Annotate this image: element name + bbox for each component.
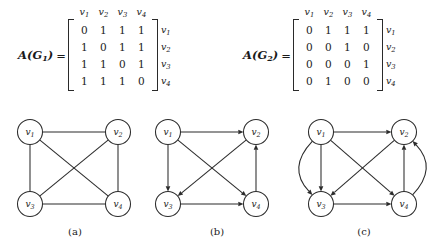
edge-arrowhead (319, 186, 324, 191)
matrix-a-g2-row-labels: v1 v2 v3 v4 (383, 19, 396, 91)
graph-edge-curved (413, 145, 427, 195)
graph-edge-directed (178, 140, 243, 193)
edge-arrowhead (402, 145, 407, 150)
graph-edge-directed (330, 140, 390, 192)
caption-c: (c) (284, 226, 444, 237)
matrix-a-g2: A(G2) = v1 v2 v3 v4 0 1 1 1 (243, 4, 396, 91)
graph-edge-directed (334, 140, 394, 192)
edge-arrowhead (254, 145, 259, 150)
matrix-a-g2-column-headers: v1 v2 v3 v4 (293, 4, 396, 19)
matrix-a-g2-cells: 0 1 1 1 0 0 1 0 0 0 0 1 (299, 19, 377, 91)
caption-a: (a) (0, 226, 150, 237)
matrix-a-g1-equals: = (56, 49, 68, 63)
matrix-row: 1 0 1 1 (75, 38, 151, 55)
caption-b: (b) (142, 226, 292, 237)
matrix-row: 1 1 0 1 (75, 55, 151, 72)
graph-edge-curved (299, 141, 313, 191)
matrix-row: 0 1 1 1 (75, 21, 151, 38)
matrix-a-g2-label: A(G2) (243, 48, 281, 63)
matrix-row: 0 0 1 0 (300, 38, 376, 55)
matrix-a-g2-equals: = (281, 49, 293, 63)
matrix-left-bracket (293, 19, 299, 91)
matrix-row: 0 0 0 1 (300, 55, 376, 72)
matrix-a-g1-cells: 0 1 1 1 1 0 1 1 1 1 0 1 (74, 19, 152, 91)
edge-arrowhead (166, 186, 171, 191)
edge-arrowhead (386, 130, 391, 135)
matrix-a-g1-label: A(G1) (18, 48, 56, 63)
graph-edge-directed (182, 140, 247, 193)
matrix-a-g1-row-labels: v1 v2 v3 v4 (158, 19, 171, 91)
matrix-right-bracket (152, 19, 158, 91)
matrix-row: 0 1 1 1 (300, 21, 376, 38)
adjacency-matrix-figure: A(G1) = v1 v2 v3 v4 0 1 1 1 (0, 0, 444, 248)
matrix-right-bracket (377, 19, 383, 91)
matrix-row: 1 1 1 0 (75, 72, 151, 89)
matrix-a-g1: A(G1) = v1 v2 v3 v4 0 1 1 1 (18, 4, 171, 91)
edge-arrowhead (238, 130, 243, 135)
matrix-a-g1-column-headers: v1 v2 v3 v4 (68, 4, 171, 19)
matrix-row: 0 1 0 0 (300, 72, 376, 89)
edge-arrowhead (386, 202, 391, 207)
matrix-left-bracket (68, 19, 74, 91)
edge-arrowhead (238, 202, 243, 207)
